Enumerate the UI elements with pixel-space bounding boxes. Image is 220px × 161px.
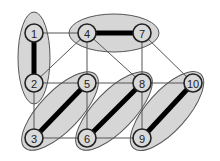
graph-diagram: 12345678910 (0, 0, 220, 161)
node-7: 7 (133, 24, 151, 42)
node-10: 10 (184, 74, 202, 92)
node-label: 2 (31, 78, 37, 90)
node-6: 6 (78, 129, 96, 147)
node-9: 9 (133, 129, 151, 147)
node-label: 10 (187, 78, 199, 90)
node-label: 7 (139, 28, 145, 40)
node-5: 5 (78, 74, 96, 92)
node-label: 8 (139, 78, 145, 90)
node-label: 6 (84, 133, 90, 145)
node-label: 4 (84, 28, 90, 40)
node-label: 5 (84, 78, 90, 90)
node-label: 3 (31, 133, 37, 145)
node-8: 8 (133, 74, 151, 92)
node-4: 4 (78, 24, 96, 42)
node-2: 2 (25, 74, 43, 92)
node-label: 1 (31, 28, 37, 40)
node-label: 9 (139, 133, 145, 145)
node-3: 3 (25, 129, 43, 147)
node-1: 1 (25, 24, 43, 42)
